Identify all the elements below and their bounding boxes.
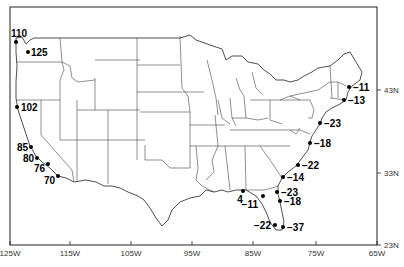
station-dot: [281, 175, 285, 179]
lon-tick-65w: 65W: [369, 249, 386, 258]
station-value-label: −11: [353, 82, 370, 93]
lon-tick-125w: 125W: [0, 249, 21, 258]
lat-tick-43n: 43N: [384, 86, 399, 95]
station-dot: [29, 145, 33, 149]
station-value-label: −13: [348, 95, 365, 106]
station-dot: [273, 223, 277, 227]
lon-tick-115w: 115W: [60, 249, 81, 258]
us-outline: [16, 35, 362, 230]
station-dot: [14, 40, 18, 44]
lon-tick-75w: 75W: [308, 249, 325, 258]
lon-tick-95w: 95W: [184, 249, 201, 258]
station-value-label: −18: [314, 138, 331, 149]
lon-tick-85w: 85W: [245, 249, 262, 258]
map-figure: 125W 115W 105W 95W 85W 75W 65W 43N 33N 2…: [0, 0, 404, 267]
lat-axis: 43N 33N 23N: [377, 86, 399, 250]
station-dot: [15, 105, 19, 109]
state-boundaries: [16, 36, 346, 192]
station-value-label: −11: [242, 199, 259, 210]
station-value-label: −23: [324, 118, 341, 129]
station-value-label: −18: [284, 196, 301, 207]
station-value-label: 80: [23, 153, 35, 164]
station-dot: [281, 225, 285, 229]
lat-tick-23n: 23N: [384, 241, 399, 250]
station-dot: [296, 163, 300, 167]
station-dot: [56, 174, 60, 178]
station-value-label: −14: [287, 172, 304, 183]
station-dot: [261, 194, 265, 198]
station-dot: [308, 141, 312, 145]
station-value-label: 110: [11, 28, 28, 39]
station-dot: [35, 156, 39, 160]
station-dot: [318, 121, 322, 125]
station-dot: [46, 162, 50, 166]
station-dot: [26, 50, 30, 54]
station-value-label: −37: [287, 222, 304, 233]
station-dot: [241, 189, 245, 193]
station-dot: [342, 98, 346, 102]
station-dot: [278, 199, 282, 203]
station-value-label: −22: [254, 220, 271, 231]
station-value-label: 102: [21, 102, 38, 113]
station-value-label: 76: [34, 163, 46, 174]
lat-tick-33n: 33N: [384, 169, 399, 178]
station-value-label: 125: [31, 47, 48, 58]
station-dot: [275, 190, 279, 194]
station-value-label: −22: [302, 160, 319, 171]
station-dot: [347, 85, 351, 89]
lon-tick-105w: 105W: [121, 249, 142, 258]
lon-axis: 125W 115W 105W 95W 85W 75W 65W: [0, 241, 386, 258]
map-frame: [10, 7, 377, 245]
station-value-label: 85: [17, 142, 29, 153]
station-value-label: 70: [44, 175, 56, 186]
